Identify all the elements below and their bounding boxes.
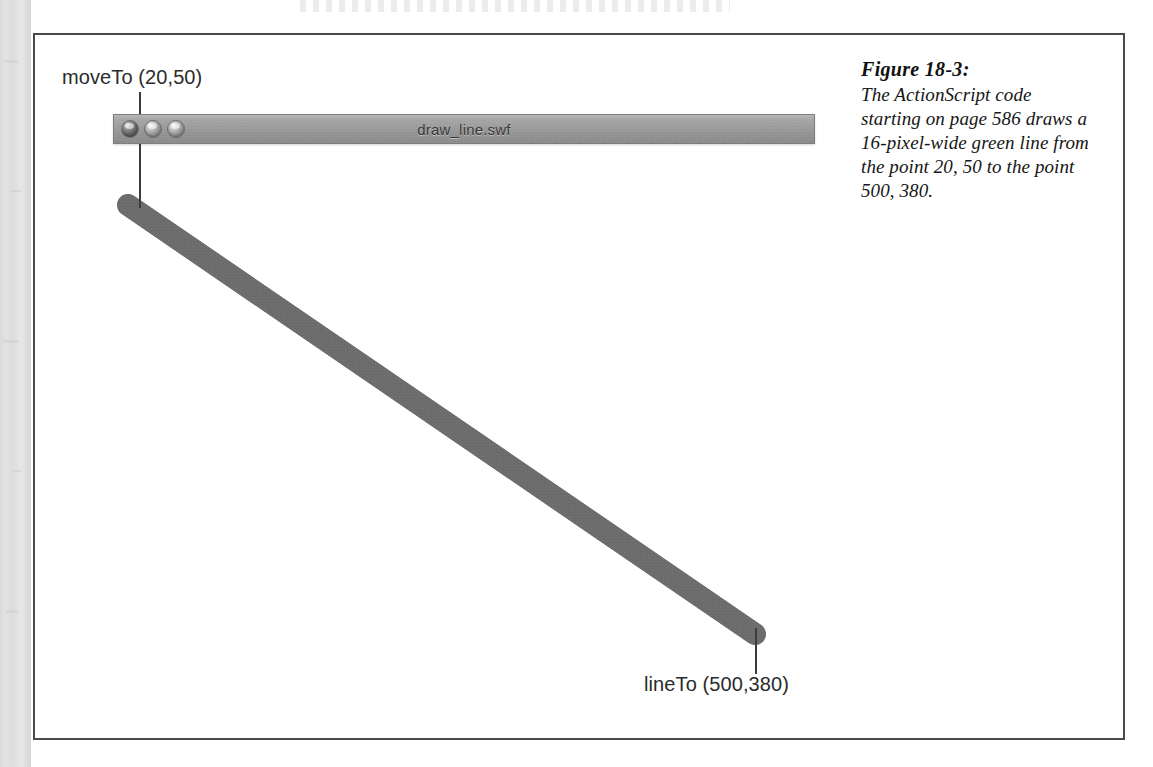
scan-ink-bleed [300, 0, 730, 12]
book-gutter-shadow [0, 0, 31, 767]
annotation-label-moveto: moveTo (20,50) [62, 66, 202, 89]
leader-line-lineto [755, 628, 757, 674]
figure-caption-body: The ActionScript code starting on page 5… [861, 83, 1093, 203]
swf-window-titlebar[interactable]: draw_line.swf [113, 114, 815, 144]
figure-scan-page: moveTo (20,50) lineTo (500,380) draw_lin… [0, 0, 1153, 767]
leader-line-moveto [139, 92, 141, 208]
figure-caption: Figure 18-3: The ActionScript code start… [861, 58, 1093, 203]
window-title: draw_line.swf [114, 121, 814, 138]
annotation-label-lineto: lineTo (500,380) [644, 673, 789, 696]
figure-caption-title: Figure 18-3: [861, 58, 1093, 81]
